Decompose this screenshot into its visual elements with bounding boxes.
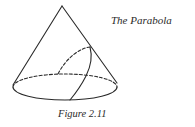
cone-right-generator xyxy=(62,6,117,83)
figure-title: The Parabola xyxy=(111,14,172,26)
cone-left-generator xyxy=(13,6,62,85)
base-ellipse-front xyxy=(13,87,117,100)
parabola-visible-branch xyxy=(70,47,91,100)
base-ellipse-back xyxy=(13,74,117,87)
parabola-hidden-branch xyxy=(58,47,90,74)
figure-caption: Figure 2.11 xyxy=(58,108,106,119)
